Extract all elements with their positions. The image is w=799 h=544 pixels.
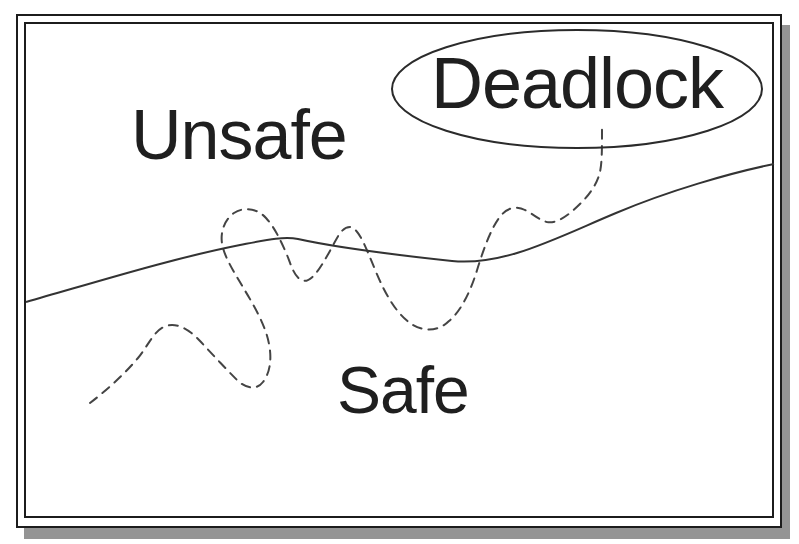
deadlock-label: Deadlock [431, 47, 723, 119]
safe-region-label: Safe [337, 357, 469, 423]
safe-unsafe-boundary-curve [26, 164, 774, 302]
figure-canvas: Unsafe Deadlock Safe [0, 0, 799, 544]
unsafe-region-label: Unsafe [131, 100, 347, 170]
